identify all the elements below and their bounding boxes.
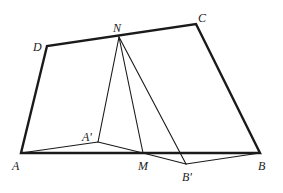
label-C: C	[198, 11, 207, 25]
geometry-diagram: A B C D N M A' B'	[0, 0, 283, 193]
label-A: A	[11, 159, 20, 173]
quadrilateral-outline	[21, 24, 260, 153]
label-A-prime: A'	[81, 130, 92, 144]
segment-N-B-prime	[119, 37, 186, 164]
segment-N-M	[119, 37, 143, 153]
label-D: D	[32, 40, 42, 54]
quadrilateral-ABCD	[21, 24, 260, 153]
label-B: B	[258, 159, 266, 173]
diagram-svg: A B C D N M A' B'	[0, 0, 283, 193]
label-M: M	[137, 159, 149, 173]
segment-B-prime-B	[186, 153, 260, 164]
segment-N-A-prime	[98, 37, 119, 142]
segment-M-B-prime	[143, 153, 186, 164]
label-N: N	[112, 21, 122, 35]
fold-lines-group	[21, 37, 260, 164]
segment-A-prime-M	[98, 142, 143, 153]
label-B-prime: B'	[182, 170, 192, 184]
